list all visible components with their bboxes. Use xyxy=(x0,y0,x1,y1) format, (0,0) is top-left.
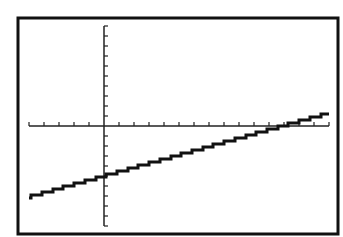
graph-plot xyxy=(0,0,343,237)
graph-screen: y ≈ 0.42x − 5 xyxy=(0,0,343,237)
